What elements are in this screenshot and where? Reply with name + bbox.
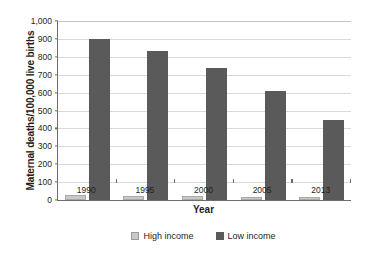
x-axis-title: Year — [57, 204, 350, 215]
legend-item-low-income: Low income — [216, 231, 276, 241]
bar-group — [299, 21, 344, 200]
x-tick-label-2000: 2000 — [194, 185, 213, 195]
bar-low-income-1990 — [89, 39, 110, 200]
plot-area: 01002003004005006007008009001,000 — [57, 21, 351, 201]
y-tick-label: 100 — [38, 177, 52, 187]
bar-low-income-2000 — [206, 68, 227, 200]
bar-high-income-1990 — [65, 195, 86, 200]
x-tick-label-1990: 1990 — [77, 185, 96, 195]
bar-high-income-2005 — [241, 197, 262, 200]
bar-low-income-1995 — [147, 51, 168, 200]
x-tick-mark — [291, 179, 292, 183]
bar-group — [241, 21, 286, 200]
y-tick-label: 400 — [38, 123, 52, 133]
x-tick-mark — [116, 179, 117, 183]
y-axis-title: Maternal deaths/100,000 live births — [25, 16, 36, 206]
y-tick-label: 0 — [47, 195, 52, 205]
bar-high-income-2000 — [182, 196, 203, 200]
bar-high-income-2013 — [299, 197, 320, 200]
legend-item-high-income: High income — [131, 231, 193, 241]
bar-chart: Maternal deaths/100,000 live births 0100… — [0, 0, 365, 261]
bar-high-income-1995 — [123, 196, 144, 200]
legend-label: High income — [143, 231, 193, 241]
legend-swatch-icon — [131, 232, 139, 240]
bar-group — [123, 21, 168, 200]
y-tick-label: 500 — [38, 106, 52, 116]
x-tick-mark — [350, 179, 351, 183]
y-tick-label: 800 — [38, 52, 52, 62]
chart-legend: High incomeLow income — [57, 231, 350, 241]
legend-label: Low income — [228, 231, 276, 241]
bars-layer — [58, 21, 351, 200]
legend-swatch-icon — [216, 232, 224, 240]
bar-low-income-2005 — [265, 91, 286, 200]
bar-group — [182, 21, 227, 200]
y-tick-label: 700 — [38, 70, 52, 80]
x-tick-mark — [174, 179, 175, 183]
x-tick-label-1995: 1995 — [135, 185, 154, 195]
y-tick-label: 300 — [38, 141, 52, 151]
y-tick-label: 600 — [38, 88, 52, 98]
x-tick-label-2013: 2013 — [311, 185, 330, 195]
y-tick-label: 200 — [38, 159, 52, 169]
y-tick-label: 1,000 — [31, 16, 52, 26]
y-tick-label: 900 — [38, 34, 52, 44]
x-tick-mark — [233, 179, 234, 183]
bar-group — [65, 21, 110, 200]
x-tick-label-2005: 2005 — [253, 185, 272, 195]
